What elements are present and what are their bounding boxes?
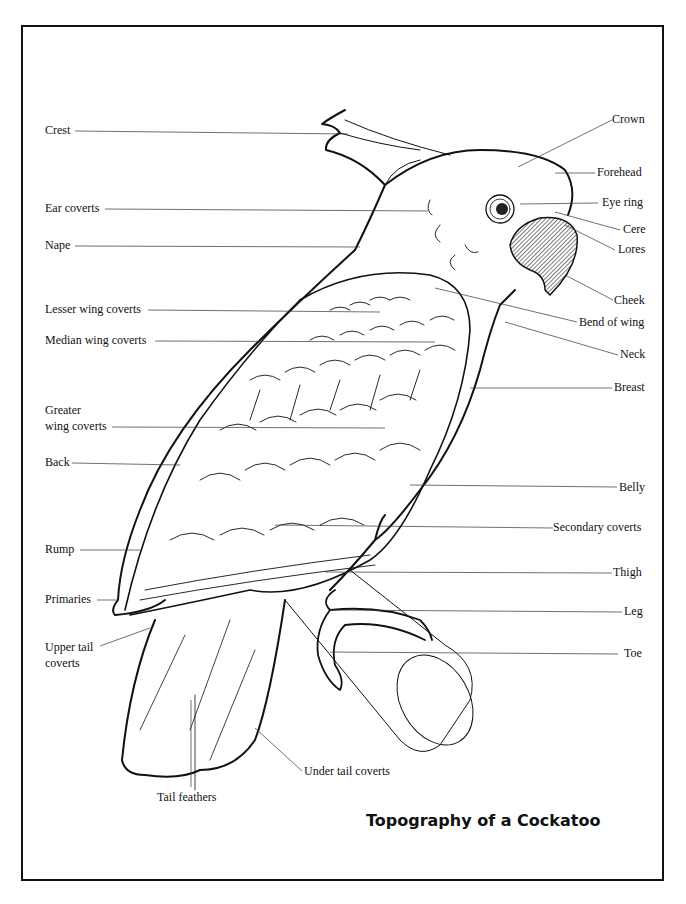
label-median-wing-coverts: Median wing coverts	[45, 333, 146, 348]
label-greater-wing-coverts-line2: wing coverts	[45, 419, 107, 434]
label-rump: Rump	[45, 542, 74, 557]
diagram-title: Topography of a Cockatoo	[366, 811, 600, 830]
wing	[125, 273, 470, 615]
label-lesser-wing-coverts: Lesser wing coverts	[45, 302, 141, 317]
label-leg: Leg	[624, 604, 643, 619]
foot	[318, 590, 433, 690]
label-upper-tail-coverts-line2: coverts	[45, 656, 80, 671]
body-outline	[113, 110, 572, 615]
label-neck: Neck	[620, 347, 645, 362]
label-primaries: Primaries	[45, 592, 91, 607]
label-under-tail-coverts: Under tail coverts	[304, 764, 390, 779]
label-lores: Lores	[618, 242, 645, 257]
label-eye-ring: Eye ring	[602, 195, 643, 210]
label-nape: Nape	[45, 238, 70, 253]
label-greater-wing-coverts-line1: Greater	[45, 403, 81, 418]
label-upper-tail-coverts-line1: Upper tail	[45, 640, 93, 655]
label-toe: Toe	[624, 646, 642, 661]
label-cere: Cere	[623, 222, 646, 237]
tail	[122, 600, 285, 777]
label-belly: Belly	[619, 480, 645, 495]
label-breast: Breast	[614, 380, 645, 395]
label-ear-coverts: Ear coverts	[45, 201, 99, 216]
branch	[285, 570, 488, 759]
label-forehead: Forehead	[597, 165, 642, 180]
beak	[510, 218, 577, 295]
label-cheek: Cheek	[614, 293, 645, 308]
label-secondary-coverts: Secondary coverts	[553, 520, 641, 535]
label-bend-of-wing: Bend of wing	[579, 315, 644, 330]
label-thigh: Thigh	[613, 565, 642, 580]
label-crest: Crest	[45, 123, 70, 138]
label-tail-feathers: Tail feathers	[157, 790, 216, 805]
label-back: Back	[45, 455, 70, 470]
eye	[486, 195, 514, 223]
label-crown: Crown	[612, 112, 645, 127]
